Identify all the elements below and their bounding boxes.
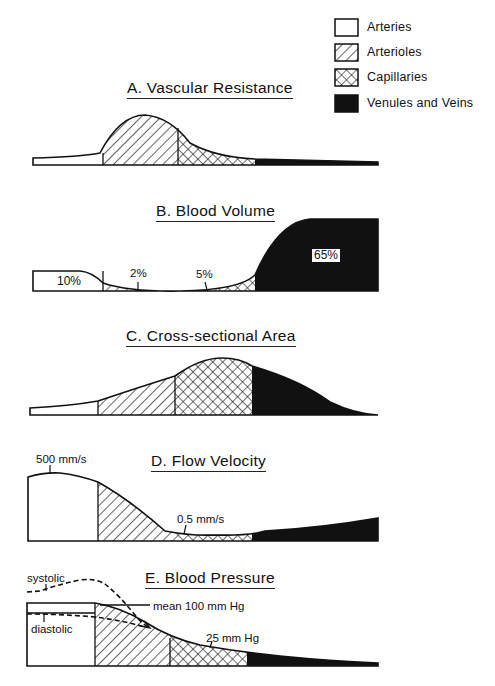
panel-e-title: E. Blood Pressure xyxy=(145,569,275,589)
flow-velocity-max-label: 500 mm/s xyxy=(36,453,87,466)
legend-label-arterioles: Arterioles xyxy=(367,45,422,59)
blood-volume-arterioles-label: 2% xyxy=(130,267,147,280)
blood-volume-arteries-label: 10% xyxy=(57,275,81,288)
panel-d-title: D. Flow Velocity xyxy=(151,452,266,472)
mean-pressure-label: mean 100 mm Hg xyxy=(153,600,244,613)
panel-a-title: A. Vascular Resistance xyxy=(127,79,293,99)
systolic-label: systolic xyxy=(27,572,65,585)
diastolic-label: diastolic xyxy=(31,623,73,636)
panel-a-vascular-resistance xyxy=(30,100,380,170)
legend-label-veins: Venules and Veins xyxy=(367,96,473,110)
panel-b-title: B. Blood Volume xyxy=(156,202,275,222)
blood-volume-capillaries-label: 5% xyxy=(196,268,213,281)
flow-velocity-min-label: 0.5 mm/s xyxy=(177,513,224,526)
capillary-pressure-label: 25 mm Hg xyxy=(206,632,259,645)
legend-label-capillaries: Capillaries xyxy=(367,70,428,84)
blood-volume-veins-label: 65% xyxy=(312,249,340,262)
panel-c-title: C. Cross-sectional Area xyxy=(126,327,296,347)
legend-swatches xyxy=(335,19,358,112)
legend-label-arteries: Arteries xyxy=(367,20,412,34)
